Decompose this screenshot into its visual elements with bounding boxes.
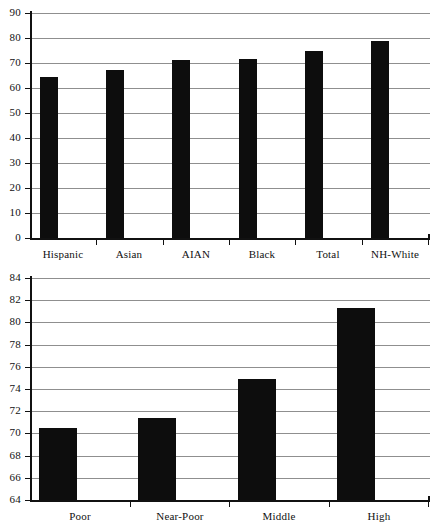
x-axis-tick — [428, 240, 429, 245]
x-axis-label: Total — [295, 248, 361, 260]
y-axis-label: 84 — [0, 272, 21, 283]
x-axis-tick — [329, 502, 330, 507]
x-axis-label: High — [329, 510, 429, 522]
x-axis-tick — [295, 240, 296, 245]
x-axis-tick — [229, 240, 230, 245]
y-axis — [30, 276, 32, 502]
bar — [40, 77, 58, 238]
bar — [337, 308, 375, 500]
y-axis-label: 90 — [0, 7, 21, 18]
x-axis — [30, 238, 430, 240]
y-axis-label: 68 — [0, 450, 21, 461]
x-axis-tick — [96, 240, 97, 245]
y-axis-label: 80 — [0, 316, 21, 327]
x-axis-label: Poor — [30, 510, 130, 522]
gridline — [30, 163, 430, 164]
gridline — [30, 138, 430, 139]
y-axis-label: 76 — [0, 361, 21, 372]
y-axis-label: 50 — [0, 107, 21, 118]
y-axis-label: 60 — [0, 82, 21, 93]
gridline — [30, 38, 430, 39]
bar — [305, 51, 323, 238]
y-axis — [30, 11, 32, 240]
x-axis-tick — [362, 240, 363, 245]
bar — [172, 60, 190, 238]
bar — [106, 70, 124, 238]
bar — [138, 418, 176, 500]
y-axis-label: 30 — [0, 157, 21, 168]
x-axis-label: Near-Poor — [130, 510, 230, 522]
x-axis-tick — [229, 502, 230, 507]
figure-page: 0102030405060708090HispanicAsianAIANBlac… — [0, 0, 436, 532]
bar — [239, 59, 257, 238]
bar — [39, 428, 77, 500]
y-axis-label: 80 — [0, 32, 21, 43]
y-axis-label: 78 — [0, 339, 21, 350]
x-axis-tick — [130, 502, 131, 507]
x-axis-label: Asian — [96, 248, 162, 260]
y-axis-label: 64 — [0, 494, 21, 505]
x-axis-label: Middle — [229, 510, 329, 522]
y-axis-label: 72 — [0, 405, 21, 416]
bar — [238, 379, 276, 500]
x-axis-tick — [428, 502, 429, 507]
gridline — [30, 88, 430, 89]
bar-chart-by-income-level: 6466687072747678808284PoorNear-PoorMiddl… — [0, 266, 436, 532]
bar-chart-by-race-ethnicity: 0102030405060708090HispanicAsianAIANBlac… — [0, 0, 436, 266]
y-axis-label: 10 — [0, 207, 21, 218]
y-axis-label: 70 — [0, 427, 21, 438]
gridline — [30, 13, 430, 14]
x-axis-label: Hispanic — [30, 248, 96, 260]
y-axis-label: 0 — [0, 232, 21, 243]
y-axis-label: 82 — [0, 294, 21, 305]
gridline — [30, 213, 430, 214]
x-axis-label: Black — [229, 248, 295, 260]
gridline — [30, 113, 430, 114]
x-axis-label: NH-White — [362, 248, 428, 260]
gridline — [30, 278, 430, 279]
x-axis — [30, 500, 430, 502]
y-axis-label: 66 — [0, 472, 21, 483]
bar — [371, 41, 389, 238]
y-axis-label: 70 — [0, 57, 21, 68]
x-axis-label: AIAN — [163, 248, 229, 260]
y-axis-label: 74 — [0, 383, 21, 394]
gridline — [30, 188, 430, 189]
y-axis-label: 20 — [0, 182, 21, 193]
gridline — [30, 300, 430, 301]
y-axis-label: 40 — [0, 132, 21, 143]
x-axis-tick — [163, 240, 164, 245]
gridline — [30, 63, 430, 64]
